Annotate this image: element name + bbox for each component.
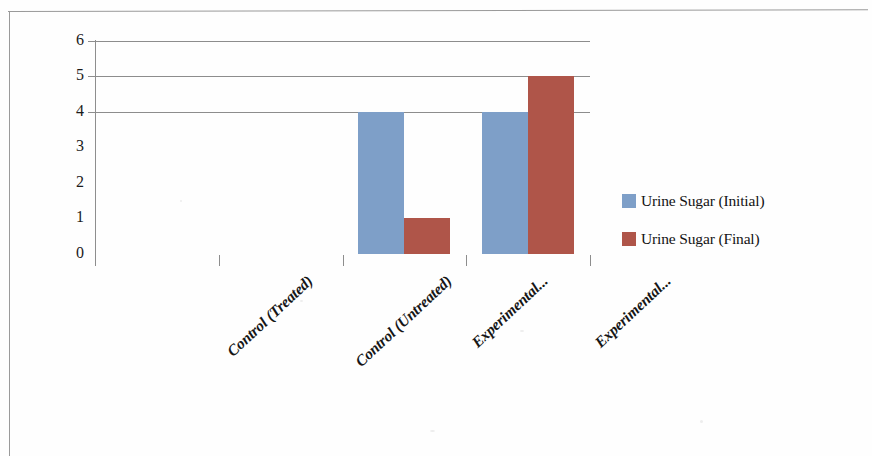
x-axis-label-3: Experimental... [591, 272, 674, 351]
bar-3-series-1 [528, 76, 574, 254]
legend-label-0: Urine Sugar (Initial) [641, 192, 764, 210]
x-axis-label-1: Control (Untreated) [351, 272, 455, 370]
x-axis-tick-4 [590, 255, 591, 266]
legend-swatch-icon-1 [622, 232, 636, 246]
x-axis-label-2: Experimental... [468, 272, 551, 351]
chart-screenshot: 6543210 Control (Treated)Control (Untrea… [0, 0, 872, 456]
scan-speckle [180, 200, 182, 202]
bar-2-series-1 [404, 218, 450, 254]
x-axis-tick-1 [219, 255, 220, 266]
bar-2-series-0 [358, 112, 404, 254]
legend-label-1: Urine Sugar (Final) [641, 230, 760, 248]
x-axis-tick-2 [343, 255, 344, 266]
bar-chart-plot-area: 6543210 Control (Treated)Control (Untrea… [0, 0, 872, 456]
legend-item-1[interactable]: Urine Sugar (Final) [622, 230, 760, 248]
x-axis-tick-3 [466, 255, 467, 266]
scan-speckle [700, 420, 703, 423]
scan-speckle [430, 430, 435, 432]
scan-speckle [300, 300, 303, 302]
bar-3-series-0 [482, 112, 528, 254]
legend-item-0[interactable]: Urine Sugar (Initial) [622, 192, 764, 210]
x-axis-tick-0 [95, 255, 96, 266]
x-axis-label-0: Control (Treated) [224, 272, 317, 360]
bars-layer [0, 0, 872, 254]
scan-speckle [520, 330, 524, 332]
legend-swatch-icon-0 [622, 194, 636, 208]
